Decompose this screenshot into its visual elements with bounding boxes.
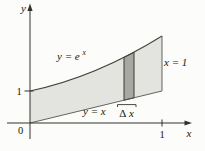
- exp-curve-label-exponent: x: [81, 48, 86, 57]
- figure-canvas: y x 0 1 1 y = e x x = 1 y = x Δ x: [0, 0, 205, 151]
- x-tick-label: 1: [159, 129, 164, 140]
- x-axis-arrowhead-icon: [185, 120, 193, 125]
- y-axis-label: y: [20, 2, 26, 14]
- delta-x-label: Δ x: [119, 107, 134, 119]
- exp-curve-label-base: y = e: [56, 50, 80, 62]
- delta-x-strip: [124, 52, 134, 100]
- origin-label: 0: [18, 125, 23, 136]
- exp-curve-label: y = e x: [56, 48, 86, 62]
- delta-variable: x: [128, 107, 134, 119]
- delta-symbol: Δ: [119, 107, 126, 119]
- x-axis-label: x: [186, 127, 192, 139]
- line-label: y = x: [82, 105, 106, 117]
- area-between-curves-figure: y x 0 1 1 y = e x x = 1 y = x Δ x: [0, 0, 205, 151]
- right-boundary-label: x = 1: [163, 56, 187, 68]
- y-axis-arrowhead-icon: [27, 4, 32, 12]
- y-tick-label: 1: [16, 86, 21, 97]
